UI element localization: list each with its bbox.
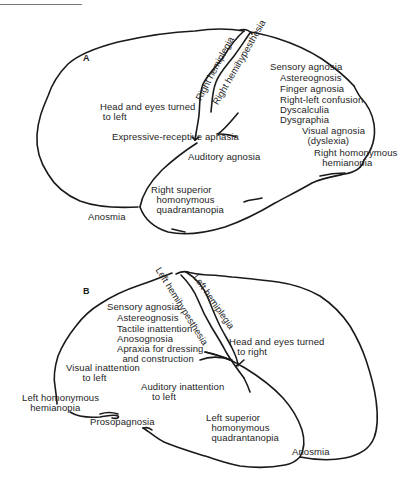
label-astereognosis-a: Astereognosis <box>280 73 342 83</box>
panel-b-label: B <box>83 286 90 296</box>
label-anosmia-a: Anosmia <box>88 212 126 222</box>
label-finger-agnosia: Finger agnosia <box>280 84 344 94</box>
label-auditory-inattention: Auditory inattention to left <box>141 382 224 402</box>
label-right-homonymous-hemianopia: Right homonymous hemianopia <box>314 148 397 168</box>
label-prosopagnosia: Prosopagnosia <box>90 417 155 427</box>
label-head-eyes-left: Head and eyes turned to left <box>100 102 195 122</box>
label-head-eyes-right: Head and eyes turned to right <box>229 337 324 357</box>
label-visual-agnosia: Visual agnosia (dyslexia) <box>302 126 365 146</box>
label-left-superior-quadrantanopia: Left superior homonymous quadrantanopia <box>206 413 279 443</box>
label-right-superior-quadrantanopia: Right superior homonymous quadrantanopia <box>151 185 224 215</box>
label-apraxia: Apraxia for dressing and construction <box>117 344 203 364</box>
label-auditory-agnosia: Auditory agnosia <box>188 152 260 162</box>
label-dysgraphia: Dysgraphia <box>280 115 329 125</box>
label-anosmia-b: Anosmia <box>292 447 330 457</box>
label-sensory-agnosia-b: Sensory agnosia <box>107 302 179 312</box>
label-left-homonymous-hemianopia: Left homonymous hemianopia <box>22 393 99 413</box>
panel-a-label: A <box>83 53 90 63</box>
label-visual-inattention: Visual inattention to left <box>66 363 140 383</box>
label-astereognosis-b: Astereognosis <box>117 313 179 323</box>
label-sensory-agnosia-a: Sensory agnosia <box>270 62 342 72</box>
label-expressive-receptive-aphasia: Expressive-receptive aphasia <box>112 132 239 142</box>
